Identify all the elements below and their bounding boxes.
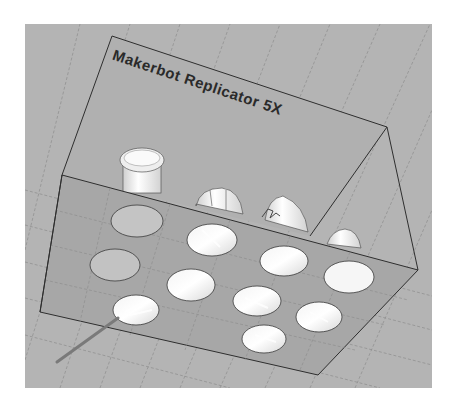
hole [167,269,215,301]
scene-canvas[interactable]: Makerbot Replicator 5X [25,24,432,388]
hole [113,295,159,325]
hole [233,286,281,316]
hole [324,261,374,293]
hole [260,246,308,276]
small-dome[interactable] [327,229,361,248]
hole [90,249,140,281]
3d-viewport[interactable]: Makerbot Replicator 5X [25,24,432,388]
cylinder-knob[interactable] [120,148,164,193]
hole [111,205,163,237]
leader-rod [57,318,118,362]
